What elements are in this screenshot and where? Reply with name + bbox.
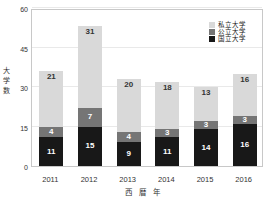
bar-segment-2015-public[interactable]: 3 (194, 121, 218, 129)
bar-segment-2014-private[interactable]: 18 (155, 82, 179, 129)
bar-segment-2015-private[interactable]: 13 (194, 87, 218, 121)
bar-value-label: 16 (240, 141, 249, 149)
stacked-bar-chart: 大 学 数 0 15 30 45 60 11421157319420113181… (0, 0, 277, 199)
legend-swatch-public-icon (209, 29, 215, 35)
y-axis-title-char-1: 大 (1, 66, 12, 76)
bar-value-label: 31 (86, 28, 95, 36)
y-tick-label-45: 45 (6, 46, 28, 53)
bar-segment-2014-national[interactable]: 11 (155, 137, 179, 166)
legend-item-national[interactable]: 国立大学 (209, 35, 246, 42)
bar-segment-2012-private[interactable]: 31 (78, 26, 102, 108)
bar-value-label: 3 (165, 129, 169, 137)
legend-item-private[interactable]: 私立大学 (209, 21, 246, 28)
bar-value-label: 20 (124, 81, 133, 89)
bar-value-label: 3 (204, 121, 208, 129)
gridline-30 (32, 86, 262, 87)
chart-legend: 私立大学 公立大学 国立大学 (209, 21, 246, 42)
bar-segment-2016-national[interactable]: 16 (233, 124, 257, 166)
bar-2015[interactable]: 14313 (194, 87, 218, 166)
gridline-15 (32, 126, 262, 127)
bar-value-label: 7 (88, 113, 92, 121)
y-tick-label-30: 30 (6, 85, 28, 92)
bar-segment-2011-private[interactable]: 21 (39, 71, 63, 126)
bar-segment-2012-national[interactable]: 15 (78, 127, 102, 167)
plot-area: 11421157319420113181431316316 私立大学 公立大学 … (31, 9, 263, 167)
legend-label-national: 国立大学 (218, 35, 246, 42)
bar-value-label: 18 (163, 84, 172, 92)
bar-value-label: 9 (126, 150, 130, 158)
y-tick-label-60: 60 (6, 6, 28, 13)
bar-value-label: 11 (163, 148, 171, 156)
bar-value-label: 4 (49, 128, 53, 136)
bar-2016[interactable]: 16316 (233, 74, 257, 166)
legend-swatch-national-icon (209, 36, 215, 42)
x-tick-label-2016: 2016 (224, 176, 263, 184)
bar-segment-2015-national[interactable]: 14 (194, 129, 218, 166)
bar-segment-2014-public[interactable]: 3 (155, 129, 179, 137)
bar-value-label: 15 (86, 142, 95, 150)
y-tick-label-15: 15 (6, 125, 28, 132)
gridline-60 (32, 7, 262, 8)
bar-value-label: 11 (47, 148, 55, 156)
legend-swatch-private-icon (209, 22, 215, 28)
bar-value-label: 3 (242, 116, 246, 124)
bar-2013[interactable]: 9420 (117, 79, 141, 166)
x-tick-label-2012: 2012 (70, 176, 109, 184)
bar-segment-2016-public[interactable]: 3 (233, 116, 257, 124)
x-tick-label-2011: 2011 (31, 176, 70, 184)
x-tick-label-2014: 2014 (147, 176, 186, 184)
bar-segment-2011-national[interactable]: 11 (39, 137, 63, 166)
legend-label-public: 公立大学 (218, 28, 246, 35)
bar-segment-2013-private[interactable]: 20 (117, 79, 141, 132)
bar-segment-2013-public[interactable]: 4 (117, 132, 141, 143)
bar-value-label: 21 (47, 73, 56, 81)
bar-value-label: 16 (240, 76, 249, 84)
gridline-45 (32, 47, 262, 48)
y-tick-label-0: 0 (6, 164, 28, 171)
bar-segment-2011-public[interactable]: 4 (39, 127, 63, 138)
legend-label-private: 私立大学 (218, 21, 246, 28)
bar-2012[interactable]: 15731 (78, 26, 102, 166)
x-tick-label-2013: 2013 (108, 176, 147, 184)
bar-segment-2013-national[interactable]: 9 (117, 142, 141, 166)
x-tick-label-2015: 2015 (186, 176, 225, 184)
x-axis-title: 西 暦 年 (0, 186, 277, 197)
bar-value-label: 4 (126, 133, 130, 141)
bar-segment-2012-public[interactable]: 7 (78, 108, 102, 126)
bar-value-label: 13 (202, 89, 211, 97)
bar-2014[interactable]: 11318 (155, 82, 179, 166)
legend-item-public[interactable]: 公立大学 (209, 28, 246, 35)
bar-value-label: 14 (202, 144, 211, 152)
bar-2011[interactable]: 11421 (39, 71, 63, 166)
bar-segment-2016-private[interactable]: 16 (233, 74, 257, 116)
